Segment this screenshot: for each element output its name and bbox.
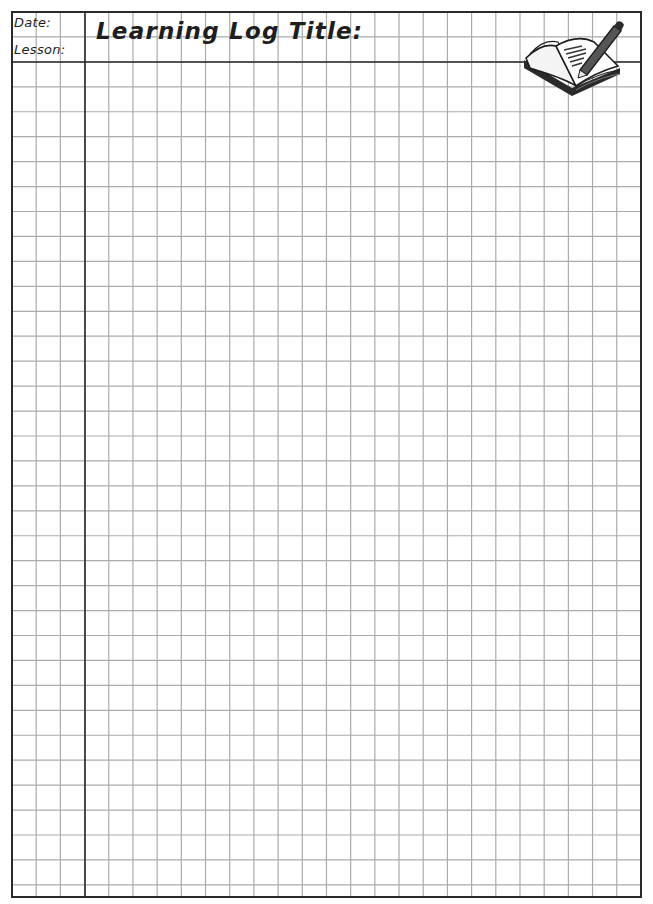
graph-paper-grid: [0, 0, 653, 904]
date-label: Date:: [14, 15, 51, 30]
page-title: Learning Log Title:: [96, 18, 363, 44]
open-book-with-pencil-icon: [520, 16, 626, 102]
lesson-label: Lesson:: [14, 42, 65, 57]
